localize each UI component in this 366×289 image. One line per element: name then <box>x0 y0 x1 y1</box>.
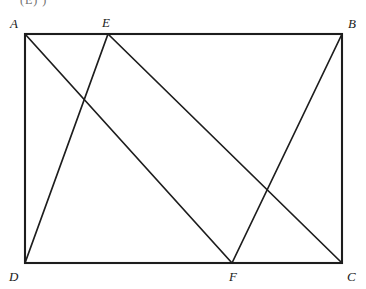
segment-a-f <box>25 34 232 263</box>
vertex-label-a: A <box>10 17 18 30</box>
vertex-label-f: F <box>229 270 237 283</box>
vertex-label-c: C <box>347 270 356 283</box>
segment-e-c <box>108 34 342 263</box>
interior-segments-group <box>25 34 342 263</box>
segment-f-b <box>232 34 342 263</box>
vertex-label-b: B <box>348 17 356 30</box>
vertex-label-d: D <box>9 270 18 283</box>
segment-d-e <box>25 34 108 263</box>
vertex-label-e: E <box>102 16 110 29</box>
geometry-figure: (E) ) A E B D F C <box>0 0 366 289</box>
rectangle-abcd <box>25 34 342 263</box>
figure-canvas <box>0 0 366 289</box>
